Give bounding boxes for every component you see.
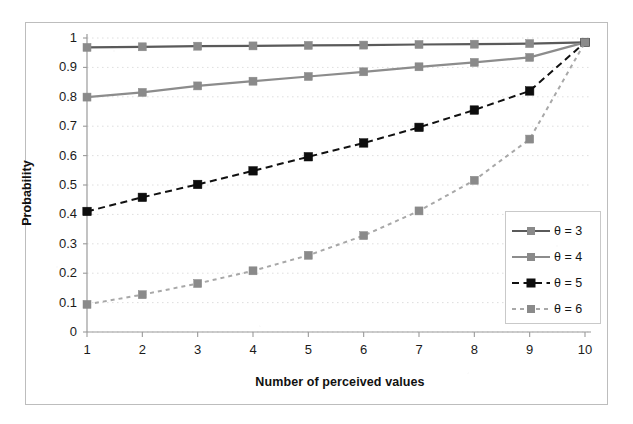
x-tick-label: 6 xyxy=(350,342,378,357)
x-tick-label: 2 xyxy=(128,342,156,357)
y-tick-label: 0 xyxy=(37,324,77,339)
x-tick-label: 8 xyxy=(460,342,488,357)
legend-swatch-theta3-icon xyxy=(511,224,551,238)
series-θ4 xyxy=(83,38,589,101)
x-tick-label: 9 xyxy=(516,342,544,357)
legend-item-theta5: θ = 5 xyxy=(511,270,595,296)
y-tick-label: 0.3 xyxy=(37,236,77,251)
y-axis-title: Probability xyxy=(20,148,34,238)
legend-item-theta3: θ = 3 xyxy=(511,218,595,244)
legend-label: θ = 5 xyxy=(554,277,582,290)
y-tick-label: 0.2 xyxy=(37,265,77,280)
legend-item-theta4: θ = 4 xyxy=(511,244,595,270)
legend-swatch-theta6-icon xyxy=(511,302,551,316)
y-tick-label: 0.4 xyxy=(37,206,77,221)
y-tick-label: 0.6 xyxy=(37,148,77,163)
legend-label: θ = 6 xyxy=(554,303,582,316)
series-θ5 xyxy=(83,38,590,216)
y-tick-label: 0.7 xyxy=(37,118,77,133)
x-tick-label: 7 xyxy=(405,342,433,357)
legend-swatch-theta5-icon xyxy=(511,276,551,290)
x-axis-title: Number of perceived values xyxy=(130,375,550,389)
chart-figure: Probability Number of perceived values 1… xyxy=(0,0,633,424)
y-tick-label: 0.8 xyxy=(37,89,77,104)
legend-label: θ = 3 xyxy=(554,225,582,238)
legend-swatch-theta4-icon xyxy=(511,250,551,264)
y-tick-label: 0.1 xyxy=(37,295,77,310)
x-tick-label: 10 xyxy=(571,342,599,357)
series-θ3 xyxy=(83,38,589,51)
y-tick-label: 0.9 xyxy=(37,59,77,74)
y-tick-label: 1 xyxy=(37,30,77,45)
x-tick-label: 4 xyxy=(239,342,267,357)
legend-label: θ = 4 xyxy=(554,251,582,264)
legend-item-theta6: θ = 6 xyxy=(511,296,595,322)
x-tick-label: 5 xyxy=(294,342,322,357)
chart-legend: θ = 3θ = 4θ = 5θ = 6 xyxy=(505,211,601,324)
y-tick-label: 0.5 xyxy=(37,177,77,192)
x-tick-label: 1 xyxy=(73,342,101,357)
x-tick-label: 3 xyxy=(184,342,212,357)
